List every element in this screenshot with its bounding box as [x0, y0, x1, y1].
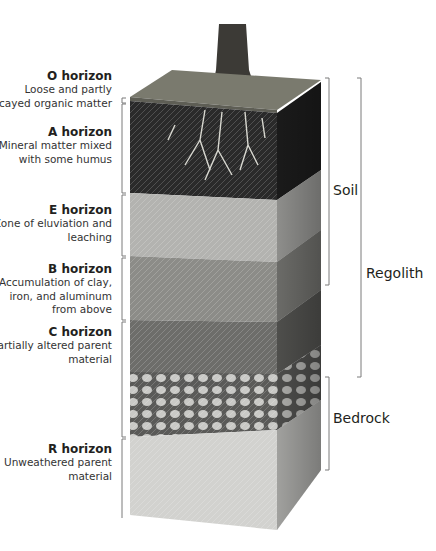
bracket-a: [122, 104, 126, 193]
horizon-o-label: O horizon Loose and partly decayed organ…: [0, 69, 112, 110]
zone-soil-label: Soil: [333, 182, 358, 198]
bracket-o: [122, 98, 126, 103]
horizon-e-label: E horizon Zone of eluviation and leachin…: [0, 203, 112, 244]
bracket-bedrock: [325, 377, 329, 470]
bracket-e: [122, 195, 126, 256]
horizon-c-label: C horizon Partially altered parent mater…: [0, 325, 112, 366]
bracket-soil: [325, 78, 329, 285]
horizon-b-description: Accumulation of clay, iron, and aluminum…: [0, 276, 112, 317]
front-face: [130, 101, 277, 530]
horizon-b-label: B horizon Accumulation of clay, iron, an…: [0, 262, 112, 317]
horizon-r-description: Unweathered parent material: [0, 456, 112, 483]
horizon-r-label: R horizon Unweathered parent material: [0, 442, 112, 483]
zone-regolith-label: Regolith: [366, 265, 423, 281]
bracket-regolith: [357, 78, 361, 377]
horizon-e-description: Zone of eluviation and leaching: [0, 217, 112, 244]
horizon-e-title: E horizon: [0, 203, 112, 217]
bracket-b: [122, 258, 126, 320]
horizon-a-description: Mineral matter mixed with some humus: [0, 139, 112, 166]
zone-bedrock-label: Bedrock: [333, 410, 390, 426]
horizon-r-title: R horizon: [0, 442, 112, 456]
horizon-c-title: C horizon: [0, 325, 112, 339]
horizon-o-description: Loose and partly decayed organic matter: [0, 83, 112, 110]
bracket-r: [122, 439, 126, 518]
horizon-c-description: Partially altered parent material: [0, 339, 112, 366]
horizon-brackets: [122, 98, 126, 518]
bracket-c: [122, 322, 126, 437]
horizon-o-title: O horizon: [0, 69, 112, 83]
side-face: [277, 82, 321, 530]
horizon-a-label: A horizon Mineral matter mixed with some…: [0, 125, 112, 166]
horizon-b-title: B horizon: [0, 262, 112, 276]
horizon-a-title: A horizon: [0, 125, 112, 139]
